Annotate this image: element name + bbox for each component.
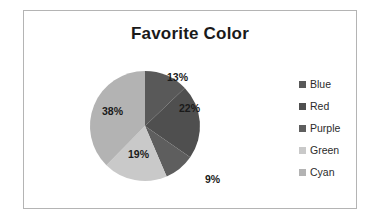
chart-legend: Blue Red Purple Green Cyan bbox=[299, 73, 359, 183]
pie-label-green: 19% bbox=[128, 149, 149, 160]
pie-label-purple: 9% bbox=[205, 174, 220, 185]
pie-slices bbox=[90, 71, 200, 181]
pie-label-blue: 13% bbox=[167, 72, 188, 83]
legend-swatch-blue-icon bbox=[299, 81, 306, 88]
legend-swatch-green-icon bbox=[299, 147, 306, 154]
pie-label-cyan: 38% bbox=[102, 106, 123, 117]
legend-swatch-red-icon bbox=[299, 103, 306, 110]
legend-label-cyan: Cyan bbox=[310, 167, 335, 178]
chart-frame: Favorite Color 13% 22% 9% 19% 38% Blue R… bbox=[23, 10, 357, 209]
legend-item-cyan[interactable]: Cyan bbox=[299, 161, 359, 183]
legend-label-red: Red bbox=[310, 101, 329, 112]
pie-svg bbox=[90, 71, 200, 181]
legend-swatch-purple-icon bbox=[299, 125, 306, 132]
pie-label-red: 22% bbox=[179, 103, 200, 114]
legend-label-green: Green bbox=[310, 145, 339, 156]
legend-label-purple: Purple bbox=[310, 123, 340, 134]
legend-item-blue[interactable]: Blue bbox=[299, 73, 359, 95]
legend-swatch-cyan-icon bbox=[299, 169, 306, 176]
legend-item-purple[interactable]: Purple bbox=[299, 117, 359, 139]
legend-label-blue: Blue bbox=[310, 79, 331, 90]
legend-item-red[interactable]: Red bbox=[299, 95, 359, 117]
legend-item-green[interactable]: Green bbox=[299, 139, 359, 161]
